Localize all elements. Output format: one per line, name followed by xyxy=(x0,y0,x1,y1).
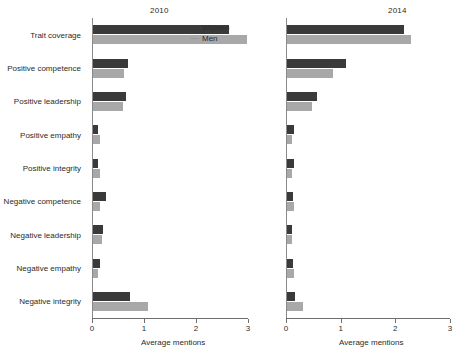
bar-women-positive-empathy xyxy=(93,125,98,134)
legend: Women Men xyxy=(190,22,229,44)
bar-women-negative-integrity xyxy=(287,292,295,301)
bar-men-positive-leadership xyxy=(93,102,123,111)
x-tick-label: 0 xyxy=(90,324,94,333)
bar-women-negative-leadership xyxy=(93,225,103,234)
bar-women-negative-empathy xyxy=(287,259,293,268)
x-tick xyxy=(395,319,396,323)
bar-men-positive-integrity xyxy=(93,169,100,178)
panel-2014: 2014 0123Average mentions xyxy=(248,0,455,357)
legend-line-men-icon xyxy=(190,38,199,39)
legend-label-women: Women xyxy=(202,23,229,32)
legend-item-women: Women xyxy=(190,22,229,33)
x-tick xyxy=(92,319,93,323)
x-axis-title: Average mentions xyxy=(339,338,403,347)
bar-women-positive-leadership xyxy=(287,92,317,101)
x-tick-label: 3 xyxy=(448,324,452,333)
category-label: Positive competence xyxy=(7,64,81,73)
x-axis-line-2014 xyxy=(286,318,450,319)
category-label: Negative empathy xyxy=(17,264,81,273)
x-tick-label: 1 xyxy=(142,324,146,333)
bar-men-negative-integrity xyxy=(287,302,303,311)
bar-men-trait-coverage xyxy=(287,35,411,44)
x-axis-title: Average mentions xyxy=(141,338,205,347)
bar-men-negative-empathy xyxy=(287,269,294,278)
x-axis-line-2010 xyxy=(92,318,248,319)
bar-men-positive-leadership xyxy=(287,102,312,111)
bar-men-negative-competence xyxy=(287,202,294,211)
bar-men-positive-integrity xyxy=(287,169,292,178)
panel-title-2014: 2014 xyxy=(388,6,407,15)
bar-men-positive-competence xyxy=(93,69,124,78)
x-tick-label: 0 xyxy=(284,324,288,333)
category-label: Negative competence xyxy=(4,197,81,206)
category-label: Positive integrity xyxy=(23,164,81,173)
panel-title-2010: 2010 xyxy=(150,6,169,15)
bar-women-negative-leadership xyxy=(287,225,292,234)
bar-women-positive-leadership xyxy=(93,92,126,101)
plot-area-2010: 0123Average mentionsTrait coveragePositi… xyxy=(92,18,248,318)
category-label: Trait coverage xyxy=(30,30,81,39)
x-tick-label: 2 xyxy=(393,324,397,333)
bar-women-negative-empathy xyxy=(93,259,100,268)
category-label: Positive leadership xyxy=(14,97,81,106)
bar-men-negative-integrity xyxy=(93,302,148,311)
x-tick xyxy=(286,319,287,323)
category-label: Negative integrity xyxy=(19,297,81,306)
bar-men-negative-empathy xyxy=(93,269,98,278)
category-label: Positive empathy xyxy=(20,130,81,139)
bar-women-positive-competence xyxy=(287,59,346,68)
bar-women-positive-integrity xyxy=(93,159,98,168)
x-tick xyxy=(341,319,342,323)
legend-label-men: Men xyxy=(202,34,218,43)
bar-women-negative-competence xyxy=(93,192,106,201)
x-tick xyxy=(144,319,145,323)
panel-2010: 2010 0123Average mentionsTrait coverageP… xyxy=(0,0,255,357)
bar-women-positive-integrity xyxy=(287,159,294,168)
bar-women-negative-integrity xyxy=(93,292,130,301)
bar-men-positive-empathy xyxy=(93,135,100,144)
bar-women-positive-competence xyxy=(93,59,128,68)
x-tick xyxy=(196,319,197,323)
bar-men-negative-competence xyxy=(93,202,100,211)
bar-men-negative-leadership xyxy=(287,235,292,244)
bar-men-negative-leadership xyxy=(93,235,102,244)
bar-women-negative-competence xyxy=(287,192,293,201)
bar-men-positive-empathy xyxy=(287,135,292,144)
category-label: Negative leadership xyxy=(10,230,81,239)
legend-line-women-icon xyxy=(190,27,199,28)
legend-item-men: Men xyxy=(190,33,229,44)
x-tick-label: 2 xyxy=(194,324,198,333)
bar-women-trait-coverage xyxy=(287,25,404,34)
figure-container: 2010 0123Average mentionsTrait coverageP… xyxy=(0,0,455,357)
x-tick xyxy=(450,319,451,323)
bar-women-positive-empathy xyxy=(287,125,294,134)
x-tick-label: 1 xyxy=(338,324,342,333)
bar-men-positive-competence xyxy=(287,69,333,78)
plot-area-2014: 0123Average mentions xyxy=(286,18,450,318)
